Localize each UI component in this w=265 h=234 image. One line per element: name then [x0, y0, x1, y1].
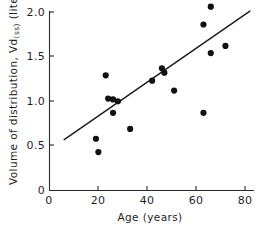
y-axis-title-suffix: (liters/kg): [7, 0, 19, 23]
axis-lines: [50, 11, 255, 191]
y-tick-label-0.5: 0.5: [27, 139, 45, 152]
data-point: [149, 78, 155, 84]
x-tick-label-60: 60: [189, 194, 204, 207]
x-tick-label-40: 40: [140, 194, 155, 207]
y-tick-label-2.0: 2.0: [27, 6, 45, 19]
chart-canvas: Volume of distribution, Vd(ss) (liters/k…: [0, 0, 265, 234]
x-tick-label-80: 80: [238, 194, 253, 207]
data-point: [103, 72, 109, 78]
regression-trend-line: [64, 11, 250, 140]
x-tick-label-0: 0: [45, 194, 52, 207]
data-point: [200, 21, 206, 27]
x-tick-labels: 0 20 40 60 80: [45, 194, 252, 207]
data-point: [161, 70, 167, 76]
y-axis-title-prefix: Volume of distribution, Vd: [7, 38, 19, 185]
y-axis-title: Volume of distribution, Vd(ss) (liters/k…: [7, 0, 21, 185]
scatter-plot-figure: Volume of distribution, Vd(ss) (liters/k…: [0, 0, 265, 234]
data-point: [127, 126, 133, 132]
svg-text:Volume of distribution, Vd(ss): Volume of distribution, Vd(ss) (liters/k…: [7, 0, 21, 185]
data-point: [171, 87, 177, 93]
data-point: [208, 4, 214, 10]
data-point: [115, 98, 121, 104]
data-point: [110, 110, 116, 116]
y-tick-label-1.0: 1.0: [27, 95, 45, 108]
x-tick-label-20: 20: [91, 194, 106, 207]
y-axis-title-subscript: (ss): [12, 23, 21, 38]
regression-line: [64, 11, 250, 140]
data-point: [208, 50, 214, 56]
y-tick-labels: 2.0 1.5 1.0 0.5 0: [27, 6, 45, 197]
axes: [50, 11, 255, 191]
data-point: [222, 43, 228, 49]
data-points: [93, 4, 229, 156]
data-point: [93, 136, 99, 142]
x-axis-title: Age (years): [117, 211, 182, 223]
data-point: [95, 149, 101, 155]
y-tick-label-1.5: 1.5: [27, 50, 45, 63]
y-tick-label-0: 0: [38, 184, 45, 197]
data-point: [200, 110, 206, 116]
